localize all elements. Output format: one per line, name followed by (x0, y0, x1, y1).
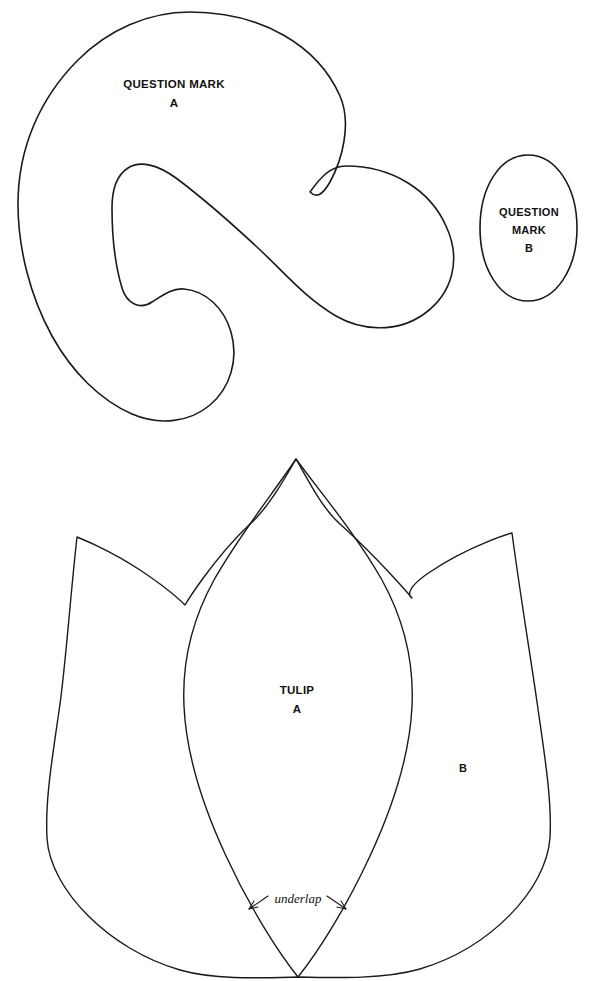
question-mark-b-label-line1: QUESTION (499, 206, 559, 218)
question-mark-a-outline (18, 12, 454, 421)
question-mark-piece-b: QUESTION MARK B (480, 155, 577, 301)
question-mark-piece-a: QUESTION MARK A (18, 12, 454, 421)
tulip-a-label-line2: A (293, 703, 302, 715)
question-mark-b-label-line3: B (525, 242, 533, 254)
underlap-label: underlap (275, 891, 322, 906)
tulip-b-label: B (459, 762, 467, 774)
question-mark-a-label-line1: QUESTION MARK (123, 78, 225, 90)
tulip-a-label-line1: TULIP (280, 684, 315, 696)
pattern-sheet: QUESTION MARK A QUESTION MARK B B TULIP … (0, 0, 589, 981)
question-mark-b-label-line2: MARK (512, 224, 546, 236)
pattern-drawing-canvas: QUESTION MARK A QUESTION MARK B B TULIP … (0, 0, 589, 981)
question-mark-a-label-line2: A (170, 97, 179, 109)
underlap-annotation: underlap (249, 891, 346, 909)
